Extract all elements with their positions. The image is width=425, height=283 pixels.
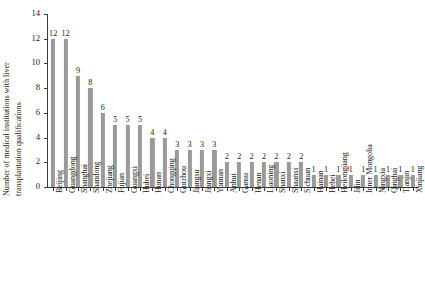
x-axis-tick-mark (314, 188, 315, 191)
x-axis-tick-mark (128, 188, 129, 191)
x-axis-label: Chongqing (168, 158, 176, 193)
x-axis-label: Jiangsu (193, 170, 201, 193)
bar-group[interactable]: 2 (221, 14, 233, 187)
x-axis-tick-mark (140, 188, 141, 191)
bar-value-label: 5 (126, 115, 130, 124)
x-axis-tick-mark (165, 188, 166, 191)
x-axis-label: Jilin (354, 180, 362, 193)
x-axis-label: Sichuan (304, 168, 312, 193)
x-axis-label: Hainan (317, 170, 325, 193)
bar-value-label: 12 (61, 29, 69, 38)
x-axis-tick-mark (351, 188, 352, 191)
x-axis-label: Qinghai (391, 168, 399, 193)
x-axis-tick-mark (376, 188, 377, 191)
bar-value-label: 6 (101, 103, 105, 112)
bar-group[interactable]: 2 (283, 14, 295, 187)
y-axis-tick-label: 2 (36, 156, 40, 166)
x-axis-label: Hebei (329, 174, 337, 193)
x-axis-label: Inner Mongolia (366, 144, 374, 193)
bar-value-label: 4 (163, 128, 167, 137)
bar-group[interactable]: 1 (382, 14, 394, 187)
x-axis-label: Liaoning (267, 165, 275, 193)
x-axis-label: Ningxia (379, 168, 387, 193)
y-axis-tick-label: 6 (36, 107, 40, 117)
x-axis-label: Shanxi (279, 171, 287, 193)
bar-value-label: 3 (188, 140, 192, 149)
y-axis-tick-label: 4 (36, 132, 40, 142)
bar-group[interactable]: 2 (270, 14, 282, 187)
bar-group[interactable]: 1 (394, 14, 406, 187)
x-axis-label: Tianjin (403, 171, 411, 193)
x-axis-tick-mark (227, 188, 228, 191)
bar-group[interactable]: 5 (109, 14, 121, 187)
bar-group[interactable]: 2 (233, 14, 245, 187)
x-axis-tick-mark (103, 188, 104, 191)
bar-group[interactable]: 2 (258, 14, 270, 187)
x-axis-label: Yunnan (217, 169, 225, 193)
bar-value-label: 1 (374, 165, 378, 174)
x-axis-tick-mark (190, 188, 191, 191)
bar-value-label: 5 (113, 115, 117, 124)
x-axis-tick-mark (66, 188, 67, 191)
x-axis-tick-mark (264, 188, 265, 191)
x-axis-label: Henan (255, 173, 263, 193)
bar-group[interactable]: 1 (320, 14, 332, 187)
bar-group[interactable]: 1 (307, 14, 319, 187)
x-axis-tick-mark (202, 188, 203, 191)
bar-value-label: 1 (312, 165, 316, 174)
bar-group[interactable]: 2 (295, 14, 307, 187)
x-axis-label: Guangxi (131, 166, 139, 193)
x-axis-label: Zhejiang (106, 165, 114, 193)
y-axis-title-line-1: Number of medical institutions with live… (2, 62, 13, 196)
x-axis-tick-mark (252, 188, 253, 191)
bar-value-label: 3 (200, 140, 204, 149)
x-axis-label: Beijing (56, 170, 64, 193)
x-axis-label: Xinjiang (416, 166, 424, 193)
bar-group[interactable]: 3 (183, 14, 195, 187)
x-axis-ticks: BeijingGuangdongShanghaiShandongZhejiang… (47, 188, 419, 283)
x-axis-tick-mark (78, 188, 79, 191)
bar-value-label: 2 (299, 152, 303, 161)
x-axis-label: Guangdong (69, 157, 77, 193)
bar-group[interactable]: 12 (47, 14, 59, 187)
bar-group[interactable]: 5 (121, 14, 133, 187)
bar-value-label: 4 (150, 128, 154, 137)
bar-value-label: 3 (212, 140, 216, 149)
x-axis-label: Hubei (143, 174, 151, 193)
x-axis-label: Guizhou (180, 166, 188, 193)
bar-chart: Number of medical institutions with live… (0, 0, 425, 283)
x-axis-label: Shanghai (81, 164, 89, 193)
bar-group[interactable]: 1 (407, 14, 419, 187)
bar-value-label: 2 (225, 152, 229, 161)
bar-value-label: 2 (287, 152, 291, 161)
x-axis-tick-mark (326, 188, 327, 191)
x-axis-label: Heilongjiang (341, 152, 349, 193)
bar-value-label: 12 (49, 29, 57, 38)
y-axis-tick-label: 14 (31, 8, 40, 18)
x-axis-tick-mark (413, 188, 414, 191)
bar-value-label: 5 (138, 115, 142, 124)
bar-group[interactable]: 3 (208, 14, 220, 187)
x-axis-label: Fujian (118, 173, 126, 193)
bars-layer: 12129865554433332222222111111111 (47, 14, 419, 187)
bar-group[interactable]: 4 (146, 14, 158, 187)
bar-value-label: 9 (76, 66, 80, 75)
bar[interactable] (51, 39, 55, 187)
x-axis-label: Gansu (242, 173, 250, 193)
y-axis-tick-label: 8 (36, 82, 40, 92)
bar-value-label: 2 (262, 152, 266, 161)
bar-value-label: 2 (237, 152, 241, 161)
y-axis-title: Number of medical institutions with live… (0, 0, 32, 200)
bar-value-label: 2 (274, 152, 278, 161)
x-axis-label: Hunan (155, 172, 163, 193)
bar-group[interactable]: 2 (245, 14, 257, 187)
y-axis-tick-label: 12 (31, 33, 40, 43)
x-axis-label: Shaanxi (292, 168, 300, 193)
y-axis-tick-label: 10 (31, 57, 40, 67)
bar-value-label: 3 (175, 140, 179, 149)
bar-group[interactable]: 5 (134, 14, 146, 187)
bar-value-label: 1 (349, 165, 353, 174)
bar-value-label: 8 (88, 78, 92, 87)
y-axis-title-line-2: transplantation qualifications (14, 102, 25, 196)
bar-group[interactable]: 3 (196, 14, 208, 187)
